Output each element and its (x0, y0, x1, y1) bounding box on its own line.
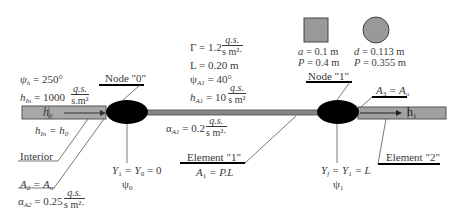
alpha-a1-param: αA1 = 0.2 (166, 122, 205, 138)
h-in-equals-h0: hIn = h0 (35, 124, 68, 140)
gamma-param: Γ = 1.2 (190, 41, 222, 53)
node-0-label: Node "0" (105, 72, 146, 84)
psi-h-param: ψh = 250° (20, 73, 63, 89)
circle-perimeter: P = 0.355 m (354, 57, 406, 69)
element-1-label: Element "1" (187, 151, 241, 163)
node-1-label: Node "1" (308, 70, 349, 82)
node-1-ellipse (317, 100, 359, 124)
alpha-a1-unit: q.s.s m²· (206, 115, 227, 138)
node-1-y-equation: Yf = Y1 = L (321, 164, 371, 180)
interior-label: Interior (20, 150, 53, 162)
node-0-psi: ψ0 (122, 178, 132, 194)
psi-a1-param: ψA1 = 40° (190, 73, 232, 89)
node-1-psi: ψ1 (333, 178, 343, 194)
square-cross-section-icon (304, 18, 328, 42)
node-0-leader (122, 85, 140, 101)
right-bar-label: h1 (407, 106, 417, 122)
element-2-leader (378, 119, 386, 164)
a2-equals-ao: A2 = Ao (20, 178, 53, 194)
gamma-unit: q.s.s m²· (222, 34, 243, 57)
alpha-a2-param: αA2 = 0.25 (18, 195, 63, 211)
node-0-y-equation: Y1 = Y0 = 0 (112, 164, 161, 180)
length-param: L = 0.20 m (190, 59, 239, 71)
left-bar-label: h0 (43, 106, 53, 122)
node-1-leader (337, 82, 350, 100)
element-2-label: Element "2" (386, 151, 440, 163)
h-in-unit: q.s.s.m² (71, 83, 89, 106)
a3-leader (360, 97, 372, 108)
a3-equals-ao: A3 = Ao (376, 84, 409, 100)
alpha-a2-unit: q.s.s m²· (64, 187, 85, 210)
node-0-ellipse (106, 100, 148, 124)
h-a1-unit: q.s.s m² (228, 82, 246, 105)
fin-rod (140, 110, 320, 115)
element-1-leader (245, 116, 296, 163)
element-1-formula: A1 = P.L (196, 166, 233, 182)
h-a1-param: hA1 = 10 (190, 91, 226, 107)
square-perimeter: P = 0.4 m (298, 57, 340, 69)
circle-cross-section-icon (363, 17, 389, 43)
